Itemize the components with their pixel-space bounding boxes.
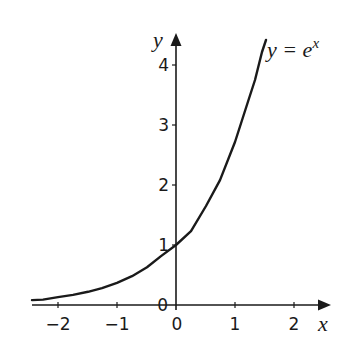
- x-axis-label: x: [317, 311, 328, 336]
- y-tick-label: 3: [158, 115, 169, 135]
- y-axis: [171, 33, 182, 310]
- y-tick-label: 2: [158, 175, 169, 195]
- svg-text:y = ex: y = ex: [265, 35, 319, 62]
- x-tick-label: −1: [104, 314, 129, 334]
- equation-text: y = e: [265, 37, 313, 62]
- x-tick-label: 1: [230, 314, 241, 334]
- x-tick-label: 2: [289, 314, 300, 334]
- y-axis-arrow-icon: [171, 33, 182, 46]
- x-tick-label: 0: [172, 314, 183, 334]
- y-axis-label: y: [151, 27, 163, 52]
- y-tick-label: 4: [158, 55, 169, 75]
- equation-annotation: y = ex: [265, 35, 319, 62]
- y-tick-label: 0: [157, 295, 168, 315]
- x-axis: [32, 300, 331, 311]
- y-tick-label: 1: [158, 235, 169, 255]
- equation-exponent: x: [311, 35, 319, 51]
- x-tick-label: −2: [45, 314, 70, 334]
- x-axis-arrow-icon: [318, 300, 331, 311]
- exp-curve: [32, 40, 266, 300]
- exponential-chart: −2 −1 0 1 2 0 1 2 3 4 x y y = ex: [0, 0, 352, 357]
